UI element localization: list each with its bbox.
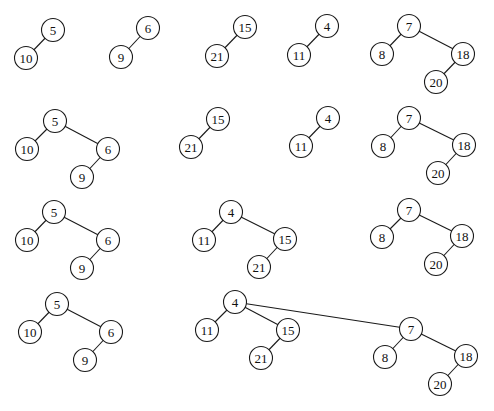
- tree-node: 21: [250, 347, 273, 370]
- node-label: 4: [228, 205, 235, 220]
- node-label: 5: [51, 205, 58, 220]
- tree-node: 5: [46, 293, 69, 316]
- nodes-layer: 5106915214117818205106915214117818205106…: [15, 15, 478, 396]
- tree-node: 8: [374, 346, 397, 369]
- tree-node: 5: [44, 110, 67, 133]
- tree-node: 5: [42, 19, 65, 42]
- tree-node: 8: [372, 135, 395, 158]
- tree-node: 11: [290, 135, 313, 158]
- node-label: 15: [282, 323, 295, 338]
- node-label: 7: [406, 111, 413, 126]
- tree-node: 11: [196, 319, 219, 342]
- tree-node: 11: [288, 44, 311, 67]
- node-label: 4: [232, 295, 239, 310]
- tree-7: 781820: [371, 199, 474, 276]
- tree-7: 781820: [372, 107, 476, 185]
- node-label: 21: [255, 351, 268, 366]
- tree-5: 51069: [16, 110, 120, 189]
- tree-node: 21: [206, 45, 229, 68]
- node-label: 8: [380, 139, 387, 154]
- tree-node: 7: [400, 318, 423, 341]
- tree-4: 4111521: [193, 201, 297, 279]
- tree-node: 8: [371, 226, 394, 249]
- node-label: 11: [201, 323, 214, 338]
- tree-node: 4: [316, 15, 339, 38]
- tree-node: 9: [74, 349, 97, 372]
- node-label: 10: [24, 325, 37, 340]
- tree-7: 781820: [371, 15, 475, 94]
- tree-node: 21: [248, 256, 271, 279]
- tree-node: 9: [71, 166, 94, 189]
- tree-5: 51069: [19, 293, 123, 372]
- tree-node: 20: [429, 373, 452, 396]
- tree-node: 7: [398, 15, 421, 38]
- row-4-edges: [30, 302, 466, 384]
- tree-node: 20: [427, 162, 450, 185]
- tree-node: 6: [97, 229, 120, 252]
- binomial-heap-diagram: 5106915214117818205106915214117818205106…: [0, 0, 494, 411]
- tree-node: 18: [452, 43, 475, 66]
- node-label: 6: [108, 325, 115, 340]
- tree-node: 10: [15, 47, 38, 70]
- node-label: 11: [293, 48, 306, 63]
- node-label: 20: [434, 377, 447, 392]
- node-label: 5: [50, 23, 57, 38]
- node-label: 10: [21, 233, 34, 248]
- node-label: 18: [460, 349, 473, 364]
- tree-node: 15: [234, 16, 257, 39]
- node-label: 20: [430, 75, 443, 90]
- tree-node: 4: [224, 291, 247, 314]
- tree-5: 51069: [16, 201, 120, 280]
- tree-node: 21: [180, 136, 203, 159]
- row-3: 510694111521781820: [16, 199, 474, 280]
- node-label: 18: [457, 47, 470, 62]
- tree-node: 20: [425, 71, 448, 94]
- node-label: 18: [456, 229, 469, 244]
- tree-node: 8: [371, 43, 394, 66]
- node-label: 9: [82, 353, 89, 368]
- tree-4: 4111521781820: [196, 291, 478, 396]
- tree-node: 11: [193, 229, 216, 252]
- tree-node: 4: [220, 201, 243, 224]
- node-label: 21: [211, 49, 224, 64]
- node-label: 6: [105, 233, 112, 248]
- tree-node: 10: [19, 321, 42, 344]
- node-label: 15: [279, 232, 292, 247]
- node-label: 7: [406, 19, 413, 34]
- node-label: 9: [79, 261, 86, 276]
- row-4: 510694111521781820: [19, 291, 478, 396]
- tree-node: 20: [425, 253, 448, 276]
- tree-node: 9: [110, 46, 133, 69]
- node-label: 11: [198, 233, 211, 248]
- node-label: 11: [295, 139, 308, 154]
- tree-node: 6: [137, 17, 160, 40]
- node-label: 9: [79, 170, 86, 185]
- node-label: 9: [118, 50, 125, 65]
- node-label: 8: [379, 230, 386, 245]
- node-label: 10: [21, 142, 34, 157]
- node-label: 15: [239, 20, 252, 35]
- row-1: 510691521411781820: [15, 15, 475, 94]
- tree-node: 9: [71, 257, 94, 280]
- node-label: 5: [52, 114, 59, 129]
- tree-node: 7: [398, 199, 421, 222]
- node-label: 6: [105, 142, 112, 157]
- node-label: 7: [408, 322, 415, 337]
- node-label: 18: [458, 138, 471, 153]
- node-label: 5: [54, 297, 61, 312]
- row-3-edges: [27, 210, 462, 268]
- node-label: 6: [145, 21, 152, 36]
- tree-node: 15: [274, 228, 297, 251]
- node-label: 4: [324, 19, 331, 34]
- tree-node: 15: [207, 108, 230, 131]
- tree-node: 6: [100, 321, 123, 344]
- tree-node: 18: [455, 345, 478, 368]
- node-label: 4: [325, 111, 332, 126]
- tree-node: 10: [16, 138, 39, 161]
- tree-node: 18: [451, 225, 474, 248]
- tree-node: 18: [453, 134, 476, 157]
- tree-node: 5: [43, 201, 66, 224]
- node-label: 21: [185, 140, 198, 155]
- tree-node: 7: [398, 107, 421, 130]
- tree-node: 10: [16, 229, 39, 252]
